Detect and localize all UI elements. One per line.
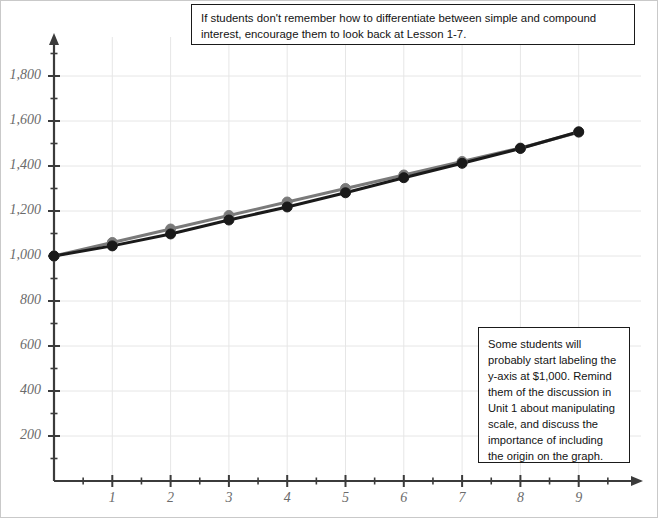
x-axis-tick-label: 2 <box>151 490 191 506</box>
y-axis-tick-label: 1,000 <box>1 247 41 263</box>
data-series <box>54 132 579 256</box>
y-axis-tick-label: 1,400 <box>1 157 41 173</box>
x-axis-tick-label: 5 <box>326 490 366 506</box>
y-axis-tick-label: 1,200 <box>1 202 41 218</box>
x-axis-tick-label: 3 <box>209 490 249 506</box>
chart-page: 2004006008001,0001,2001,4001,6001,800 12… <box>0 0 658 518</box>
teacher-note-top: If students don't remember how to differ… <box>191 4 635 45</box>
teacher-note-side: Some students will probably start labeli… <box>478 327 630 463</box>
y-axis-tick-label: 400 <box>1 382 41 398</box>
y-axis-tick-label: 1,600 <box>1 112 41 128</box>
y-axis-tick-label: 600 <box>1 337 41 353</box>
x-axis-tick-label: 1 <box>92 490 132 506</box>
teacher-note-top-text: If students don't remember how to differ… <box>201 12 596 40</box>
x-axis-tick-label: 7 <box>442 490 482 506</box>
y-axis-tick-label: 1,800 <box>1 67 41 83</box>
y-axis-tick-label: 800 <box>1 292 41 308</box>
y-axis-tick-label: 200 <box>1 427 41 443</box>
x-axis-tick-label: 8 <box>500 490 540 506</box>
teacher-note-side-text: Some students will probably start labeli… <box>488 338 616 462</box>
x-axis-tick-label: 9 <box>559 490 599 506</box>
x-axis-tick-label: 6 <box>384 490 424 506</box>
x-axis-tick-label: 4 <box>267 490 307 506</box>
